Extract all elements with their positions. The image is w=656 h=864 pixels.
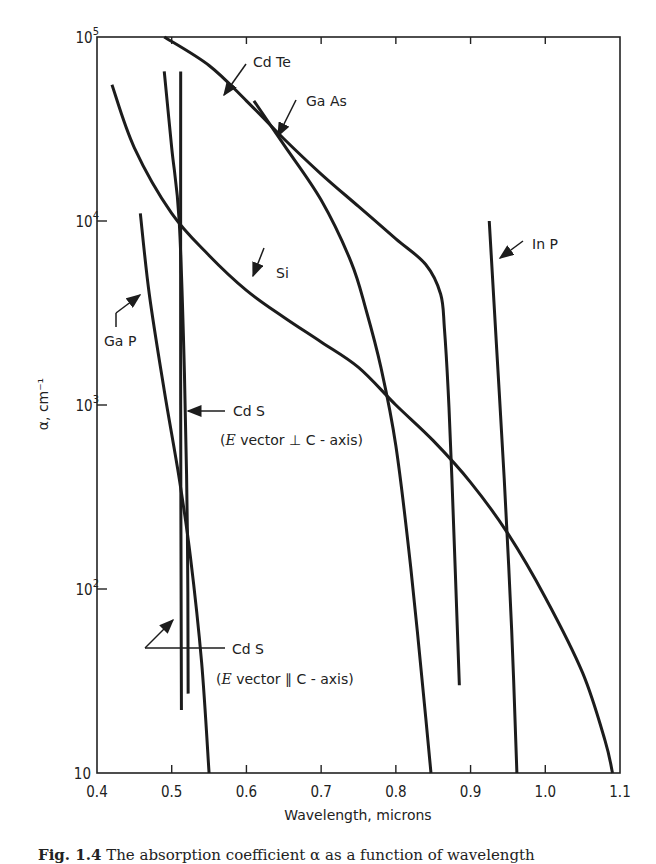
figure-caption: Fig. 1.4 The absorption coefficient α as… — [38, 846, 535, 864]
annotation-arrows — [116, 64, 523, 648]
label-si: Si — [276, 265, 289, 281]
label-gaas: Ga As — [306, 93, 347, 109]
annotation-arrow — [500, 241, 523, 258]
x-axis-title: Wavelength, microns — [284, 807, 431, 823]
y-axis-ticks: 10102103104105 — [74, 25, 107, 783]
y-tick-label: 103 — [76, 393, 99, 415]
label-gap: Ga P — [104, 333, 136, 349]
label-cds-perp: Cd S — [233, 403, 265, 419]
note-cds-perp: (E vector ⊥ C - axis) — [220, 432, 363, 448]
x-tick-label: 0.6 — [236, 783, 257, 801]
x-tick-label: 0.8 — [385, 783, 406, 801]
curve-in-p — [489, 221, 517, 773]
y-tick-label: 10 — [74, 765, 91, 783]
label-cdte: Cd Te — [253, 54, 291, 70]
x-tick-label: 1.1 — [609, 783, 630, 801]
label-inp: In P — [532, 236, 558, 252]
data-curves — [112, 37, 613, 773]
annotation-arrow — [116, 295, 140, 313]
curve-cd-s-e-vector-c-axis- — [181, 71, 182, 710]
x-tick-label: 0.9 — [460, 783, 481, 801]
x-tick-label: 0.4 — [86, 783, 107, 801]
note-cds-par: (E vector ∥ C - axis) — [216, 671, 354, 687]
y-tick-label: 105 — [76, 25, 99, 47]
label-cds-par: Cd S — [232, 641, 264, 657]
plot-frame — [97, 37, 620, 773]
y-tick-label: 102 — [76, 577, 99, 599]
x-tick-label: 0.5 — [161, 783, 182, 801]
y-axis-title: α, cm⁻¹ — [35, 378, 51, 430]
x-tick-label: 1.0 — [535, 783, 556, 801]
x-tick-label: 0.7 — [310, 783, 331, 801]
curve-ga-p — [140, 213, 209, 773]
curve-cd-te — [164, 37, 459, 685]
annotation-arrow — [278, 100, 296, 136]
annotation-arrow — [253, 248, 264, 276]
axes-box — [97, 37, 620, 773]
y-tick-label: 104 — [76, 209, 99, 231]
curve-cd-s-e-vector-c-axis- — [164, 71, 188, 693]
